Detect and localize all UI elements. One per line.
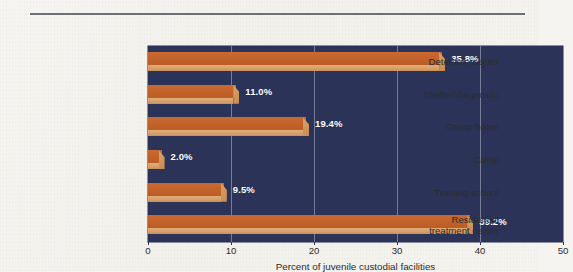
bar-row: 35.8% (148, 46, 563, 79)
x-tick-mark (231, 242, 232, 245)
category-label: Residential treatment center (399, 214, 499, 236)
bar-value-label: 2.0% (171, 151, 193, 162)
bar-value-label: 9.5% (233, 184, 255, 195)
bar-row: 11.0% (148, 79, 563, 112)
category-label: Group home (399, 121, 499, 132)
category-label: Camp (399, 154, 499, 165)
x-tick-label: 10 (216, 245, 246, 256)
bar-end-cap (233, 85, 239, 104)
bar-row: 2.0% (148, 144, 563, 177)
bar-row: 19.4% (148, 111, 563, 144)
bar-value-label: 19.4% (315, 118, 342, 129)
bar-row: 9.5% (148, 177, 563, 210)
bar-bevel (148, 65, 439, 71)
horizontal-bar-chart: 35.8%11.0%19.4%2.0%9.5%39.2% Detention c… (40, 16, 499, 255)
x-tick-mark (314, 242, 315, 245)
category-label: Detention center (399, 56, 499, 67)
bar-bevel (148, 130, 303, 136)
bar-bevel (148, 98, 233, 104)
bar-bevel (148, 196, 221, 202)
bar (148, 85, 236, 98)
bar-end-cap (159, 150, 165, 169)
bar-bevel (148, 163, 159, 169)
x-tick-mark (148, 242, 149, 245)
x-tick-mark (480, 242, 481, 245)
x-tick-mark (563, 242, 564, 245)
x-tick-mark (397, 242, 398, 245)
bar (148, 183, 224, 196)
bar-end-cap (303, 117, 309, 136)
plot-area: 35.8%11.0%19.4%2.0%9.5%39.2% (148, 46, 563, 242)
category-label: Shelter/diagnostic (399, 89, 499, 100)
x-tick-label: 0 (133, 245, 163, 256)
x-tick-label: 50 (548, 245, 573, 256)
bar-value-label: 11.0% (245, 86, 272, 97)
x-tick-label: 20 (299, 245, 329, 256)
x-axis-title: Percent of juvenile custodial facilities (148, 261, 563, 272)
category-label: Training school (399, 187, 499, 198)
bar (148, 52, 442, 65)
header-rule (30, 13, 525, 15)
x-tick-label: 40 (465, 245, 495, 256)
bar-row: 39.2% (148, 209, 563, 242)
bar-end-cap (221, 183, 227, 202)
bar (148, 117, 306, 130)
x-tick-label: 30 (382, 245, 412, 256)
